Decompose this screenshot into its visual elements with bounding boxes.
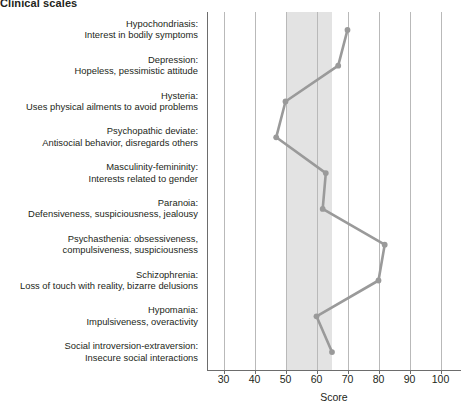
x-tick-label: 30 — [218, 373, 230, 385]
chart-page: Clinical scales Hypochondriasis:Interest… — [0, 0, 468, 410]
category-label-line2: Interests related to gender — [0, 173, 198, 185]
category-label-line2: Interest in bodily symptoms — [0, 29, 198, 41]
category-label: Psychopathic deviate:Antisocial behavior… — [0, 125, 198, 148]
category-label-line2: Uses physical ailments to avoid problems — [0, 101, 198, 113]
data-point-marker — [329, 349, 335, 355]
category-label-line2: Impulsiveness, overactivity — [0, 316, 198, 328]
category-label-line2: Antisocial behavior, disregards others — [0, 137, 198, 149]
x-tick-label: 60 — [311, 373, 323, 385]
category-label-line1: Masculinity-femininity: — [0, 161, 198, 173]
category-label-line2: Defensiveness, suspiciousness, jealousy — [0, 208, 198, 220]
x-axis-title: Score — [207, 391, 461, 403]
category-label-line1: Hypochondriasis: — [0, 18, 198, 30]
category-label: Masculinity-femininity:Interests related… — [0, 161, 198, 184]
category-label-line1: Psychasthenia: obsessiveness, — [0, 233, 198, 245]
data-point-marker — [273, 134, 279, 140]
category-label: Hypochondriasis:Interest in bodily sympt… — [0, 18, 198, 41]
data-point-marker — [382, 242, 388, 248]
x-tick-label: 50 — [280, 373, 292, 385]
category-label-line1: Depression: — [0, 54, 198, 66]
data-series-line — [207, 12, 468, 370]
x-tick-label: 90 — [404, 373, 416, 385]
data-point-marker — [345, 27, 351, 33]
x-tick-label: 40 — [249, 373, 261, 385]
plot-area — [207, 12, 468, 370]
category-label: Paranoia:Defensiveness, suspiciousness, … — [0, 197, 198, 220]
data-point-marker — [320, 206, 326, 212]
category-label-line1: Psychopathic deviate: — [0, 125, 198, 137]
data-point-marker — [314, 313, 320, 319]
category-label: Depression:Hopeless, pessimistic attitud… — [0, 54, 198, 77]
x-axis-tick-labels: 30405060708090100 — [207, 373, 468, 387]
category-label-line2: Loss of touch with reality, bizarre delu… — [0, 280, 198, 292]
category-label-line1: Social introversion-extraversion: — [0, 340, 198, 352]
x-tick-label: 80 — [373, 373, 385, 385]
category-label: Hysteria:Uses physical ailments to avoid… — [0, 90, 198, 113]
category-label-line1: Hypomania: — [0, 304, 198, 316]
category-label-line1: Schizophrenia: — [0, 269, 198, 281]
page-title: Clinical scales — [0, 0, 77, 9]
x-tick-label: 100 — [432, 373, 450, 385]
category-label: Schizophrenia:Loss of touch with reality… — [0, 269, 198, 292]
category-label-column: Hypochondriasis:Interest in bodily sympt… — [0, 12, 198, 370]
category-label: Psychasthenia: obsessiveness,compulsiven… — [0, 233, 198, 256]
category-label-line2: compulsiveness, suspiciousness — [0, 244, 198, 256]
category-label-line2: Hopeless, pessimistic attitude — [0, 65, 198, 77]
data-point-marker — [376, 278, 382, 284]
data-point-marker — [335, 63, 341, 69]
data-point-marker — [323, 170, 329, 176]
x-axis-line — [207, 370, 461, 371]
category-label: Hypomania:Impulsiveness, overactivity — [0, 304, 198, 327]
category-label-line2: Insecure social interactions — [0, 352, 198, 364]
category-label-line1: Paranoia: — [0, 197, 198, 209]
data-point-marker — [283, 99, 289, 105]
category-label: Social introversion-extraversion:Insecur… — [0, 340, 198, 363]
category-label-line1: Hysteria: — [0, 90, 198, 102]
x-tick-label: 70 — [342, 373, 354, 385]
